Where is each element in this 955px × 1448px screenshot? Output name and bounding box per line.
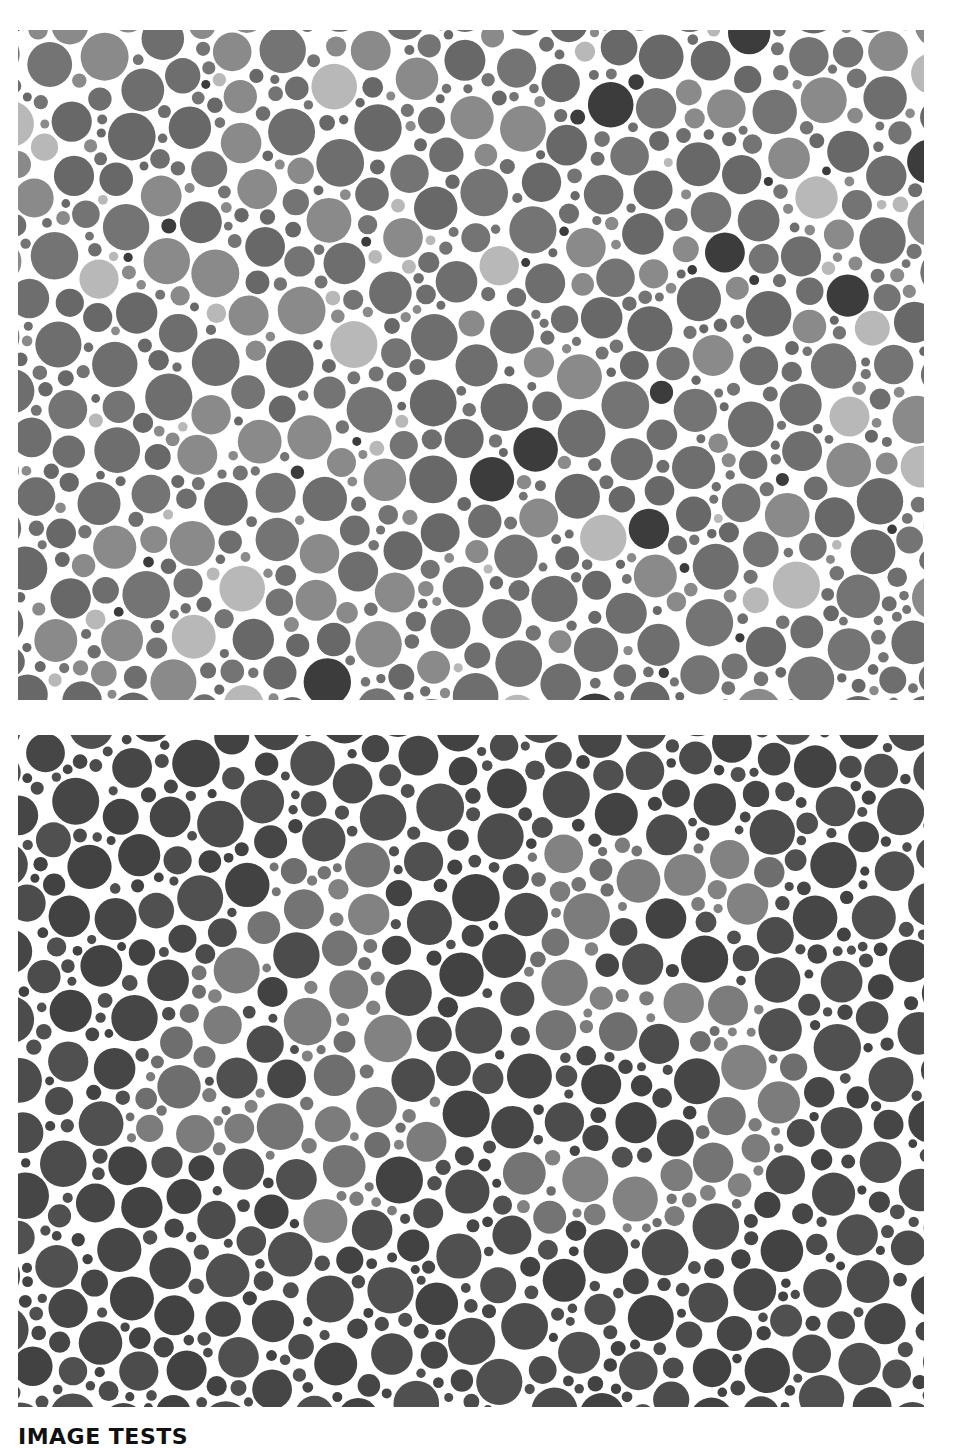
plate-dot — [500, 982, 534, 1016]
plate-dot — [726, 277, 749, 300]
plate-dot — [777, 421, 786, 430]
plate-dot — [22, 466, 32, 476]
plate-dot — [31, 232, 79, 280]
plate-dot — [73, 946, 83, 956]
plate-dot — [401, 784, 415, 798]
plate-dot — [345, 656, 355, 666]
plate-dot — [244, 1397, 253, 1406]
plate-dot — [314, 1255, 330, 1271]
plate-dot — [300, 534, 340, 574]
plate-dot — [717, 1316, 752, 1351]
plate-dot — [529, 1356, 557, 1384]
plate-dot — [26, 1039, 41, 1054]
plate-dot — [739, 126, 748, 135]
plate-dot — [360, 1065, 374, 1079]
plate-dot — [451, 1369, 473, 1391]
plate-dot — [81, 33, 129, 81]
plate-dot — [336, 1247, 363, 1274]
plate-dot — [543, 771, 590, 818]
plate-dot — [180, 1004, 199, 1023]
plate-dot — [303, 1317, 312, 1326]
plate-dot — [575, 41, 595, 61]
plate-dot — [192, 92, 205, 105]
plate-dot — [92, 1167, 105, 1180]
plate-dot — [555, 546, 579, 570]
plate-dot — [192, 477, 205, 490]
plate-dot — [677, 277, 721, 321]
plate-dot — [47, 937, 66, 956]
plate-dot — [875, 851, 915, 891]
plate-dot — [383, 218, 423, 258]
plate-dot — [214, 947, 260, 993]
plate-dot — [617, 859, 661, 903]
plate-dot — [622, 574, 632, 584]
plate-dot — [628, 1295, 674, 1341]
plate-dot — [386, 880, 412, 906]
plate-dot — [890, 268, 904, 282]
plate-dot — [574, 1384, 584, 1394]
plate-dot — [546, 1186, 556, 1196]
plate-dot — [174, 568, 203, 597]
plate-dot — [63, 1193, 73, 1203]
plate-dot — [58, 370, 74, 386]
plate-dot — [807, 944, 827, 964]
plate-dot — [24, 322, 33, 331]
plate-dot — [452, 874, 500, 922]
plate-dot — [714, 904, 723, 913]
plate-dot — [727, 883, 768, 924]
plate-dot — [112, 748, 152, 788]
plate-dot — [631, 1075, 652, 1096]
plate-dot — [764, 177, 773, 186]
plate-dot — [495, 640, 542, 687]
plate-dot — [690, 1031, 711, 1052]
plate-dot — [787, 1119, 815, 1147]
plate-dot — [845, 177, 855, 187]
plate-dot — [56, 289, 84, 317]
plate-dot — [778, 1291, 788, 1301]
plate-dot — [684, 583, 698, 597]
plate-dot — [33, 365, 48, 380]
plate-dot — [436, 1051, 471, 1086]
plate-dot — [164, 846, 192, 874]
plate-dot — [154, 1295, 194, 1335]
plate-dot — [780, 1054, 807, 1081]
plate-dot — [629, 509, 669, 549]
plate-dot — [592, 216, 601, 225]
plate-dot — [78, 525, 91, 538]
plate-dot — [590, 1281, 601, 1292]
plate-dot — [674, 1058, 720, 1104]
plate-dot — [220, 649, 229, 658]
plate-dot — [733, 1268, 776, 1311]
plate-dot — [481, 73, 494, 86]
plate-dot — [775, 782, 794, 801]
plate-dot — [148, 350, 169, 371]
plate-dot — [125, 1392, 134, 1401]
plate-dot — [623, 1223, 632, 1232]
plate-dot — [782, 431, 822, 471]
plate-dot — [172, 362, 181, 371]
plate-dot — [32, 602, 45, 615]
plate-dot — [336, 420, 349, 433]
plate-dot — [421, 560, 440, 579]
plate-dot — [397, 402, 406, 411]
plate-dot — [810, 842, 856, 888]
plate-dot — [512, 193, 522, 203]
plate-dot — [520, 1257, 540, 1277]
plate-dot — [119, 1352, 158, 1391]
plate-dot — [771, 42, 784, 55]
plate-dot — [566, 620, 576, 630]
plate-dot — [185, 183, 195, 193]
plate-dot — [103, 799, 139, 835]
plate-dot — [288, 1334, 314, 1360]
plate-dot — [406, 611, 426, 631]
plate-dot — [531, 872, 546, 887]
plate-dot — [283, 189, 309, 215]
plate-dot — [111, 995, 157, 1041]
plate-dot — [254, 1271, 274, 1291]
plate-dot — [571, 572, 581, 582]
plate-dot — [364, 603, 378, 617]
plate-dot — [905, 109, 915, 119]
plate-dot — [542, 64, 580, 102]
plate-dot — [618, 1060, 633, 1075]
plate-dot — [317, 1045, 326, 1054]
